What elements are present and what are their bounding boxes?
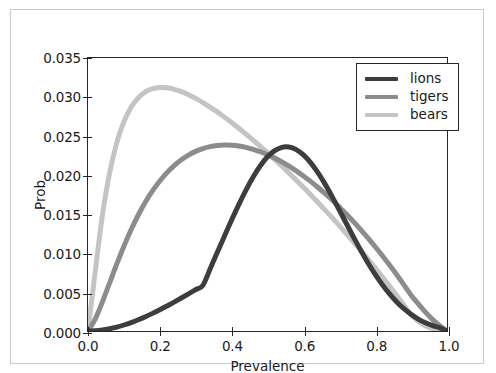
x-tick-mark-inner (88, 327, 89, 331)
y-tick-label: 0.030 (43, 89, 81, 105)
y-tick-mark-inner (88, 58, 92, 59)
y-tick-mark-inner (88, 254, 92, 255)
plot-axes: 0.0000.0050.0100.0150.0200.0250.0300.035… (87, 57, 448, 332)
y-tick-mark-inner (88, 137, 92, 138)
chart-legend: lions tigers bears (356, 63, 459, 131)
y-tick-mark-inner (88, 215, 92, 216)
legend-label-lions: lions (410, 72, 441, 86)
legend-label-tigers: tigers (410, 90, 449, 104)
x-tick-mark-inner (449, 327, 450, 331)
x-tick-label: 0.8 (366, 338, 387, 354)
legend-swatch-tigers (365, 95, 398, 100)
y-tick-label: 0.015 (43, 207, 81, 223)
legend-swatch-bears (365, 113, 398, 118)
x-tick-mark (232, 331, 233, 336)
x-tick-mark (160, 331, 161, 336)
legend-swatch-lions (365, 77, 398, 82)
y-tick-label: 0.025 (43, 129, 81, 145)
y-tick-mark-inner (88, 294, 92, 295)
x-tick-label: 0.0 (78, 338, 99, 354)
y-tick-mark-inner (88, 97, 92, 98)
curve-lions (88, 147, 447, 331)
x-tick-mark-inner (305, 327, 306, 331)
x-tick-mark (449, 331, 450, 336)
x-tick-label: 0.2 (150, 338, 171, 354)
y-tick-label: 0.000 (43, 325, 81, 341)
figure-border: 0.0000.0050.0100.0150.0200.0250.0300.035… (10, 9, 484, 364)
y-tick-mark-inner (88, 176, 92, 177)
y-tick-label: 0.020 (43, 168, 81, 184)
y-tick-label: 0.005 (43, 286, 81, 302)
x-tick-mark-inner (160, 327, 161, 331)
chart-figure: 0.0000.0050.0100.0150.0200.0250.0300.035… (0, 0, 496, 373)
x-tick-label: 1.0 (439, 338, 460, 354)
x-tick-mark (377, 331, 378, 336)
x-tick-label: 0.4 (222, 338, 243, 354)
y-tick-label: 0.010 (43, 246, 81, 262)
y-tick-label: 0.035 (43, 50, 81, 66)
y-axis-label: Prob (32, 180, 48, 210)
legend-label-bears: bears (410, 108, 448, 122)
legend-item-lions: lions (365, 70, 449, 88)
x-tick-mark-inner (232, 327, 233, 331)
x-tick-mark (305, 331, 306, 336)
curve-tigers (88, 145, 447, 331)
x-tick-mark-inner (377, 327, 378, 331)
x-tick-label: 0.6 (294, 338, 315, 354)
legend-item-tigers: tigers (365, 88, 449, 106)
x-axis-label: Prevalence (230, 358, 304, 373)
legend-item-bears: bears (365, 106, 449, 124)
x-tick-mark (88, 331, 89, 336)
